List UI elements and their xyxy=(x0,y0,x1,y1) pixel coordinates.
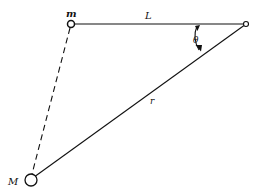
distance-line xyxy=(36,26,245,177)
orbital-geometry-diagram: m L θ r M xyxy=(0,0,256,194)
large-mass-circle xyxy=(25,174,37,186)
pivot-circle xyxy=(244,22,249,27)
angle-label: θ xyxy=(193,35,199,45)
large-mass-label: M xyxy=(7,176,19,187)
distance-label: r xyxy=(150,96,155,106)
small-mass-circle xyxy=(68,21,75,28)
dashed-connector-line xyxy=(32,28,70,174)
small-mass-label: m xyxy=(66,8,77,19)
length-label: L xyxy=(144,10,152,21)
angle-arrow-bottom-icon xyxy=(196,45,203,52)
